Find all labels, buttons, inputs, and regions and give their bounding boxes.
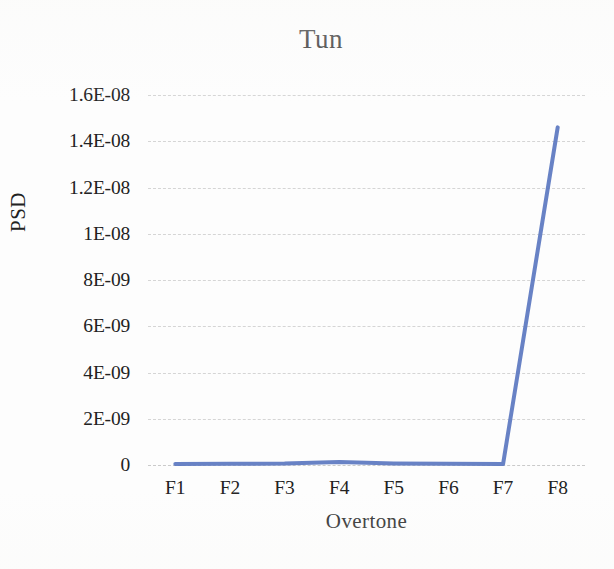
y-axis-tick-label: 4E-09 [83, 362, 130, 384]
y-axis-tick-label: 1.2E-08 [69, 177, 130, 199]
y-axis-tick-label: 8E-09 [83, 269, 130, 291]
y-axis-tick-label: 0 [120, 454, 130, 476]
x-axis-tick-label: F1 [165, 477, 186, 499]
y-axis-tick-label: 1.6E-08 [69, 84, 130, 106]
plot-area [148, 95, 585, 465]
x-axis-tick-label: F4 [329, 477, 350, 499]
x-axis-tick-label: F5 [384, 477, 405, 499]
y-axis-tick-label: 1.4E-08 [69, 130, 130, 152]
series-psd-line [148, 95, 585, 465]
y-axis-tick-label: 1E-08 [83, 223, 130, 245]
y-axis-tick-label: 2E-09 [83, 408, 130, 430]
chart-figure: Tun PSD 02E-094E-096E-098E-091E-081.2E-0… [0, 0, 614, 569]
x-axis-tick-labels: F1F2F3F4F5F6F7F8 [148, 477, 585, 503]
x-axis-tick-label: F7 [493, 477, 514, 499]
y-axis-tick-label: 6E-09 [83, 315, 130, 337]
x-axis-title: Overtone [148, 509, 585, 534]
x-axis-tick-label: F6 [438, 477, 459, 499]
x-axis-tick-label: F3 [274, 477, 295, 499]
series-line-path [175, 127, 557, 464]
x-axis-tick-label: F8 [547, 477, 568, 499]
y-axis-tick-labels: 02E-094E-096E-098E-091E-081.2E-081.4E-08… [0, 95, 140, 465]
x-axis-tick-label: F2 [220, 477, 241, 499]
chart-title: Tun [0, 24, 614, 55]
